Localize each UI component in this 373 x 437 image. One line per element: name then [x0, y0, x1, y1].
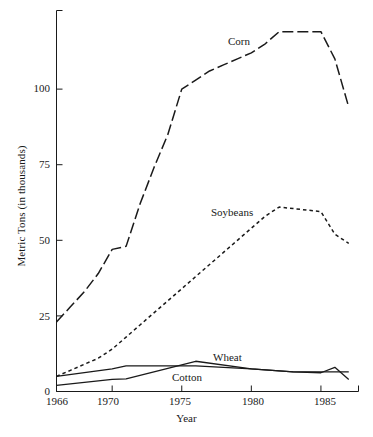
series-line-cotton — [57, 361, 349, 385]
series-line-corn — [57, 32, 349, 322]
plot-canvas — [0, 0, 373, 437]
axes-group — [57, 11, 359, 392]
series-line-soybeans — [57, 207, 349, 376]
series-line-wheat — [57, 366, 349, 377]
series-group — [57, 32, 349, 386]
chart-figure: Metric Tons (in thousands) 100 75 50 25 … — [0, 0, 373, 437]
